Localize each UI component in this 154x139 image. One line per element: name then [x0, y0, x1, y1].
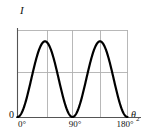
plot-canvas: [0, 0, 154, 139]
intensity-vs-angle-figure: I 0 θ2 0° 90° 180°: [0, 0, 154, 139]
axes-group: [16, 28, 141, 118]
